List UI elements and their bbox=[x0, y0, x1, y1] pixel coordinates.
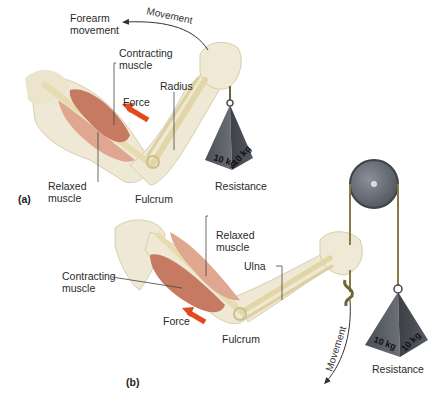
force-label-a: Force bbox=[123, 96, 150, 108]
relaxed-muscle-a-line2: muscle bbox=[48, 192, 81, 204]
radius-label: Radius bbox=[160, 80, 193, 92]
lever-diagram: 10 kg 10 kg Movement bbox=[0, 0, 439, 398]
weight-b: 10 kg 10 kg bbox=[365, 292, 428, 357]
fulcrum-label-a: Fulcrum bbox=[135, 193, 173, 205]
contracting-muscle-b-line2: muscle bbox=[62, 282, 95, 294]
forearm-movement-label-line2: movement bbox=[70, 24, 119, 36]
movement-arc-a bbox=[125, 22, 208, 50]
contracting-muscle-a-line2: muscle bbox=[119, 59, 152, 71]
contracting-muscle-b-line1: Contracting bbox=[62, 270, 116, 282]
panel-a-id: (a) bbox=[18, 193, 31, 205]
pulley bbox=[345, 160, 402, 306]
ulna-label: Ulna bbox=[244, 260, 266, 272]
relaxed-muscle-b-line1: Relaxed bbox=[216, 229, 255, 241]
fulcrum-label-b: Fulcrum bbox=[222, 333, 260, 345]
weight-a: 10 kg 10 kg bbox=[205, 105, 253, 170]
forearm-movement-label-line1: Forearm bbox=[70, 12, 110, 24]
resistance-label-b: Resistance bbox=[372, 363, 424, 375]
relaxed-muscle-b-line2: muscle bbox=[216, 241, 249, 253]
panel-b-id: (b) bbox=[126, 376, 139, 388]
resistance-label-a: Resistance bbox=[215, 180, 267, 192]
contracting-muscle-a-line1: Contracting bbox=[119, 47, 173, 59]
force-label-b: Force bbox=[163, 315, 190, 327]
relaxed-muscle-a-line1: Relaxed bbox=[48, 180, 87, 192]
